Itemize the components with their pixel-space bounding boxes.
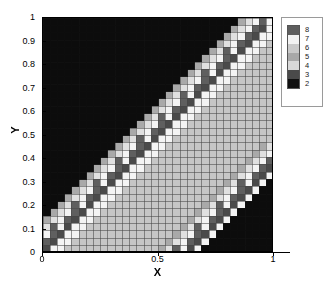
y-tick-mark bbox=[42, 158, 46, 159]
x-tick-mark bbox=[42, 252, 43, 256]
y-tick-label: 0.2 bbox=[22, 201, 35, 210]
heatmap-plot-area[interactable] bbox=[42, 17, 273, 252]
colorbar-tick-label: 3 bbox=[305, 71, 309, 79]
y-tick-mark bbox=[42, 229, 46, 230]
colorbar-tick-labels: 8765432 bbox=[303, 25, 321, 89]
figure-container: 00.10.20.30.40.50.60.70.80.91 Y 00.51 X … bbox=[0, 0, 327, 288]
y-tick-mark bbox=[42, 111, 46, 112]
colorbar-swatch bbox=[288, 35, 299, 44]
y-tick-mark bbox=[42, 17, 46, 18]
y-axis-title: Y bbox=[9, 110, 21, 150]
colorbar-tick-label: 4 bbox=[305, 62, 309, 70]
y-tick-label: 0.6 bbox=[22, 107, 35, 116]
colorbar-swatch bbox=[288, 61, 299, 70]
y-tick-label: 1 bbox=[30, 13, 35, 22]
y-tick-label: 0.3 bbox=[22, 177, 35, 186]
colorbar-swatch bbox=[288, 79, 299, 88]
colorbar-tick-label: 8 bbox=[305, 26, 309, 34]
colorbar-tick-label: 7 bbox=[305, 35, 309, 43]
y-tick-mark bbox=[42, 205, 46, 206]
y-tick-label: 0 bbox=[30, 248, 35, 257]
heatmap-canvas bbox=[43, 18, 273, 252]
colorbar-swatch bbox=[288, 70, 299, 79]
colorbar-swatch bbox=[288, 53, 299, 62]
colorbar-tick-label: 6 bbox=[305, 44, 309, 52]
y-tick-label: 0.7 bbox=[22, 83, 35, 92]
y-tick-label: 0.1 bbox=[22, 224, 35, 233]
colorbar-swatch bbox=[288, 44, 299, 53]
colorbar-legend[interactable]: 8765432 bbox=[281, 17, 323, 107]
y-tick-mark bbox=[42, 64, 46, 65]
y-tick-label: 0.9 bbox=[22, 36, 35, 45]
y-tick-mark bbox=[42, 41, 46, 42]
y-tick-label: 0.8 bbox=[22, 60, 35, 69]
y-tick-label: 0.4 bbox=[22, 154, 35, 163]
colorbar-swatch bbox=[288, 26, 299, 35]
y-tick-mark bbox=[42, 88, 46, 89]
y-tick-mark bbox=[42, 135, 46, 136]
x-axis-title: X bbox=[42, 266, 273, 278]
x-axis-line bbox=[42, 252, 290, 253]
y-tick-mark bbox=[42, 182, 46, 183]
colorbar-tick-label: 5 bbox=[305, 53, 309, 61]
colorbar-tick-label: 2 bbox=[305, 80, 309, 88]
colorbar-swatches bbox=[287, 25, 300, 89]
y-tick-label: 0.5 bbox=[22, 130, 35, 139]
x-tick-mark bbox=[158, 252, 159, 256]
x-tick-mark bbox=[273, 252, 274, 256]
